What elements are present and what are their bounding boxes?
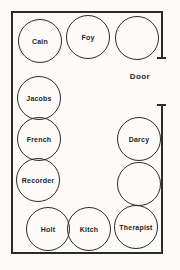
seat-empty-1[interactable] [115, 16, 159, 60]
seat-label: Therapist [119, 224, 152, 231]
seat-french[interactable]: French [17, 117, 61, 161]
seat-label: French [27, 136, 52, 143]
seat-label: Holt [41, 226, 55, 233]
seat-cain[interactable]: Cain [18, 19, 62, 63]
seat-label: Cain [32, 38, 48, 45]
door-jamb-lower [157, 104, 166, 106]
room-wall-left [11, 11, 13, 254]
door-label: Door [118, 72, 162, 81]
door-jamb-upper [157, 57, 166, 59]
room-wall-bottom [11, 252, 163, 254]
seat-foy[interactable]: Foy [66, 15, 110, 59]
seat-label: Foy [81, 34, 94, 41]
seat-empty-2[interactable] [117, 162, 161, 206]
room-wall-right-lower [161, 104, 163, 254]
seat-holt[interactable]: Holt [26, 207, 70, 251]
seat-label: Darcy [129, 136, 149, 143]
room-wall-top [11, 11, 163, 13]
seat-label: Kitch [80, 226, 99, 233]
room-wall-right-upper [161, 11, 163, 58]
seat-darcy[interactable]: Darcy [117, 117, 161, 161]
seat-label: Recorder [22, 177, 54, 184]
seat-label: Jacobs [26, 95, 51, 102]
seat-recorder[interactable]: Recorder [16, 158, 60, 202]
seat-therapist[interactable]: Therapist [114, 205, 158, 249]
room-seating-diagram: Door CainFoyJacobsFrenchRecorderDarcyHol… [0, 0, 180, 270]
seat-kitch[interactable]: Kitch [67, 207, 111, 251]
seat-jacobs[interactable]: Jacobs [17, 76, 61, 120]
